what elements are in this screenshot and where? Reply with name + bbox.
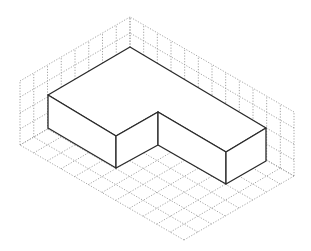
l-shaped-solid [48, 47, 266, 184]
isometric-diagram [0, 0, 311, 251]
